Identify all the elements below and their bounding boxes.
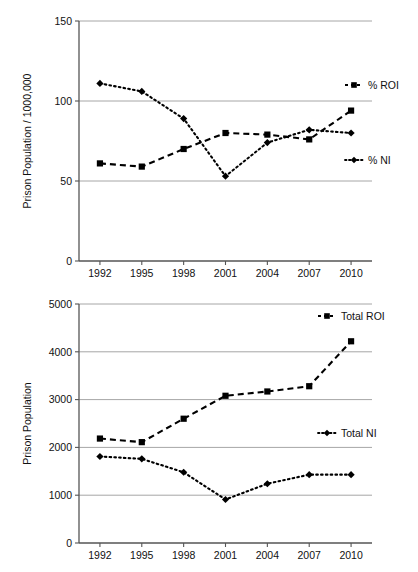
y-tick-label: 150 [54,15,72,27]
legend-label: Total NI [341,427,377,439]
prison-total-chart: 0100020003000400050001992199519982001200… [0,288,418,572]
series-line-total-ni [100,456,351,499]
x-tick-label: 2004 [256,549,280,561]
x-tick-label: 2004 [256,267,280,279]
data-point [347,129,354,136]
x-tick-label: 2007 [298,549,322,561]
data-point [222,130,228,136]
data-point [348,108,354,114]
legend-label: % NI [368,154,391,166]
x-tick-label: 2007 [298,267,322,279]
figure-container: 0501001501992199519982001200420072010Pri… [0,0,418,572]
y-tick-label: 5000 [49,298,73,310]
legend-marker [324,313,330,319]
data-point [306,383,312,389]
x-tick-label: 2001 [214,267,238,279]
legend-marker [324,430,331,437]
prison-rate-chart: 0501001501992199519982001200420072010Pri… [0,0,418,288]
data-point [306,126,313,133]
data-point [181,416,187,422]
x-tick-label: 2010 [339,267,363,279]
x-tick-label: 1995 [130,549,154,561]
data-point [222,496,229,503]
legend-label: Total ROI [341,310,385,322]
legend-entry: Total ROI [318,310,385,322]
y-tick-label: 100 [54,95,72,107]
legend-entry: % ROI [345,79,399,91]
legend-marker [351,82,357,88]
data-point [222,393,228,399]
data-point [306,471,313,478]
chart-panel-rate: 0501001501992199519982001200420072010Pri… [0,0,418,288]
data-point [348,338,354,344]
x-tick-label: 1992 [88,549,112,561]
x-tick-label: 1995 [130,267,154,279]
y-tick-label: 4000 [49,346,73,358]
data-point [180,469,187,476]
data-point [138,88,145,95]
y-axis-title: Prison Population [21,382,33,464]
legend-entry: % NI [345,154,391,166]
data-point [139,164,145,170]
data-point [264,480,271,487]
y-tick-label: 50 [60,175,72,187]
data-point [181,146,187,152]
y-tick-label: 0 [66,255,72,267]
legend-entry: Total NI [318,427,377,439]
data-point [347,471,354,478]
caption-remnant [0,563,418,572]
data-point [139,439,145,445]
x-tick-label: 1998 [172,549,196,561]
x-tick-label: 1992 [88,267,112,279]
data-point [306,136,312,142]
data-point [96,453,103,460]
chart-panel-total: 0100020003000400050001992199519982001200… [0,288,418,572]
data-point [264,388,270,394]
y-axis-title: Prison Population / 1000,000 [21,73,33,208]
legend-label: % ROI [368,79,399,91]
series-line-total-roi [100,341,351,442]
legend-marker [351,157,358,164]
y-tick-label: 3000 [49,393,73,405]
y-tick-label: 1000 [49,489,73,501]
y-tick-label: 2000 [49,441,73,453]
series-line-ni [100,83,351,176]
data-point [264,139,271,146]
x-tick-label: 1998 [172,267,196,279]
data-point [97,435,103,441]
data-point [264,132,270,138]
y-tick-label: 0 [66,537,72,549]
data-point [96,80,103,87]
data-point [138,455,145,462]
series-line-roi [100,111,351,167]
x-tick-label: 2001 [214,549,238,561]
x-tick-label: 2010 [339,549,363,561]
data-point [97,160,103,166]
